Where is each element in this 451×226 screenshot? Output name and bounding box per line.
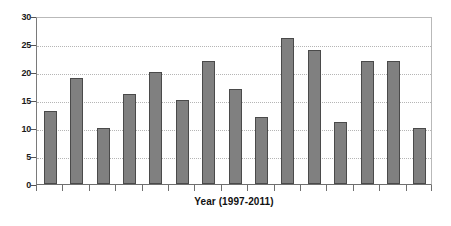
- bar: [44, 111, 57, 184]
- bar-chart: 051015202530 Year (1997-2011): [0, 0, 451, 226]
- y-axis-labels: 051015202530: [0, 0, 31, 226]
- y-axis-tick-label: 20: [5, 69, 31, 78]
- x-axis-tick-mark: [353, 185, 354, 191]
- x-axis-tick-mark: [247, 185, 248, 191]
- plot-area: [36, 17, 432, 185]
- bar: [334, 122, 347, 184]
- x-axis-tick-mark: [89, 185, 90, 191]
- y-axis-tick-label: 5: [5, 153, 31, 162]
- y-axis-tick-label: 10: [5, 125, 31, 134]
- bars-layer: [37, 18, 431, 184]
- y-axis-tick-label: 30: [5, 13, 31, 22]
- bar: [149, 72, 162, 184]
- y-axis-tick-label: 0: [5, 181, 31, 190]
- x-axis-tick-mark: [36, 185, 37, 191]
- bar: [202, 61, 215, 184]
- x-axis-tick-mark: [115, 185, 116, 191]
- bar: [413, 128, 426, 184]
- bar: [97, 128, 110, 184]
- x-axis-tick-mark: [194, 185, 195, 191]
- x-axis-tick-mark: [168, 185, 169, 191]
- bar: [229, 89, 242, 184]
- bar: [255, 117, 268, 184]
- bar: [361, 61, 374, 184]
- bar: [308, 50, 321, 184]
- x-axis-tick-mark: [379, 185, 380, 191]
- y-axis-tick-label: 15: [5, 97, 31, 106]
- x-axis-tick-mark: [326, 185, 327, 191]
- x-axis-tick-mark: [406, 185, 407, 191]
- x-axis-tick-mark: [431, 185, 432, 191]
- x-axis-tick-mark: [142, 185, 143, 191]
- x-axis-tick-mark: [221, 185, 222, 191]
- x-axis-tick-marks: [36, 185, 432, 192]
- x-axis-tick-mark: [62, 185, 63, 191]
- y-axis-tick-label: 25: [5, 41, 31, 50]
- bar: [70, 78, 83, 184]
- bar: [123, 94, 136, 184]
- bar: [176, 100, 189, 184]
- bar: [387, 61, 400, 184]
- x-axis-tick-mark: [300, 185, 301, 191]
- x-axis-title: Year (1997-2011): [36, 196, 432, 207]
- bar: [281, 38, 294, 184]
- x-axis-tick-mark: [274, 185, 275, 191]
